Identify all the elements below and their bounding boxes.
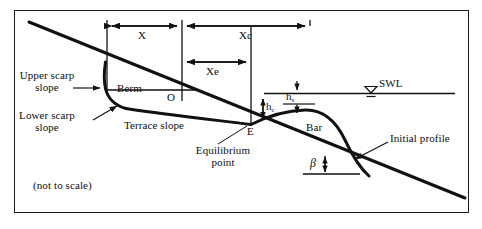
hs-subscript: s [292, 96, 295, 103]
leader-equilibrium-point [218, 126, 247, 144]
label-equilibrium-point: Equilibrium point [186, 145, 260, 169]
label-upper-scarp: Upper scarp slope [14, 70, 80, 94]
figure-container: Upper scarp slope Lower scarp slope Berm… [0, 0, 482, 229]
label-berm: Berm [117, 83, 142, 95]
upper-scarp-curve [104, 62, 105, 89]
leader-lower-scarp [93, 106, 117, 120]
dimension-label-xe: Xe [206, 66, 219, 78]
hc-subscript: c [272, 106, 275, 113]
label-terrace-slope: Terrace slope [124, 120, 184, 132]
dimension-label-xc: Xc [239, 30, 252, 42]
label-swl: SWL [379, 78, 403, 90]
dimension-label-x: X [138, 30, 146, 42]
equilibrium-line2: point [211, 156, 234, 168]
label-beta: β [310, 157, 316, 170]
upper-scarp-line2: slope [35, 81, 59, 93]
label-point-e: E [247, 126, 254, 138]
label-initial-profile: Initial profile [390, 133, 450, 145]
swl-marker-icon [365, 87, 377, 97]
initial-profile-line [29, 22, 465, 198]
equilibrium-line1: Equilibrium [196, 144, 250, 156]
upper-scarp-line1: Upper scarp [20, 69, 75, 81]
leader-initial-profile [355, 142, 388, 159]
dimension-label-hc: hc [266, 101, 275, 113]
label-not-to-scale: (not to scale) [33, 180, 92, 192]
lower-scarp-line2: slope [35, 121, 59, 133]
label-lower-scarp: Lower scarp slope [12, 110, 82, 134]
lower-scarp-line1: Lower scarp [19, 109, 75, 121]
dimension-label-hs: hs [286, 91, 294, 103]
label-point-o: O [167, 92, 175, 104]
label-bar: Bar [306, 122, 322, 134]
